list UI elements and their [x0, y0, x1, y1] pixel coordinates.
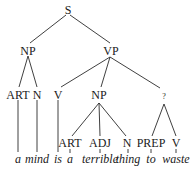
parse-tree-diagram: S NP VP ART N V NP ? ART ADJ N PREP V a … [0, 0, 194, 170]
word-a2: a [67, 152, 73, 166]
word-to: to [146, 152, 155, 166]
edge-np2-n [99, 103, 126, 136]
edge-s-np [30, 15, 66, 43]
edge-q-v [164, 104, 176, 136]
edge-np-n [28, 56, 37, 87]
edge-q-prep [152, 104, 164, 136]
sentence-words: a mind is a terrible thing to waste [15, 152, 190, 166]
node-unknown: ? [162, 92, 166, 101]
node-s: S [65, 3, 72, 17]
word-mind: mind [25, 152, 50, 166]
node-art2: ART [58, 136, 82, 150]
node-v2: V [172, 136, 181, 150]
word-waste: waste [162, 152, 190, 166]
word-terrible: terrible [82, 152, 119, 166]
node-np: NP [20, 44, 36, 58]
node-n2: N [123, 136, 132, 150]
node-adj: ADJ [89, 136, 111, 150]
edge-np2-art [72, 103, 99, 136]
word-thing: thing [116, 152, 141, 166]
edge-np-art [19, 56, 28, 87]
edge-vp-q [110, 57, 160, 88]
word-is: is [54, 152, 62, 166]
edge-s-vp [70, 15, 110, 43]
node-np2: NP [91, 88, 107, 102]
word-a: a [15, 152, 21, 166]
node-art: ART [6, 88, 30, 102]
tree-nodes: S NP VP ART N V NP ? ART ADJ N PREP V [6, 3, 180, 150]
node-prep: PREP [137, 136, 166, 150]
node-vp: VP [103, 44, 119, 58]
node-n: N [33, 88, 42, 102]
edge-np2-adj [99, 103, 100, 136]
node-v: V [54, 88, 63, 102]
tree-edges [18, 15, 176, 153]
